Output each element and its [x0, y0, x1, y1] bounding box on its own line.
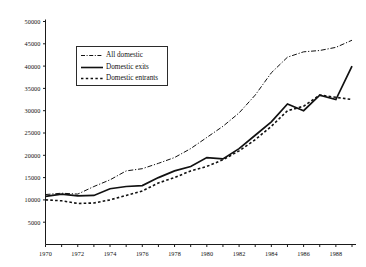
x-axis-tick-label: 1986 [290, 250, 318, 257]
dash-dot-line-icon [81, 51, 103, 60]
legend-item-all-domestic: All domestic [81, 50, 164, 62]
y-axis-tick-label: 30000 [2, 107, 41, 114]
solid-line-icon [81, 63, 103, 72]
y-axis-tick-label: 50000 [2, 18, 41, 25]
y-axis-tick-label: 20000 [2, 152, 41, 159]
x-axis-tick-label: 1982 [225, 250, 253, 257]
x-axis-tick-label: 1972 [64, 250, 92, 257]
series-line [46, 95, 353, 203]
chart-legend: All domestic Domestic exits Domestic ent… [76, 46, 168, 86]
y-axis-tick-label: 10000 [2, 196, 41, 203]
x-axis-tick-label: 1976 [128, 250, 156, 257]
legend-label-domestic-exits: Domestic exits [106, 63, 149, 72]
x-axis-tick-label: 1970 [32, 250, 60, 257]
legend-item-domestic-exits: Domestic exits [81, 62, 164, 74]
x-axis-tick-label: 1980 [193, 250, 221, 257]
x-axis-tick-label: 1988 [322, 250, 350, 257]
chart-container: All domestic Domestic exits Domestic ent… [0, 0, 366, 267]
legend-label-all-domestic: All domestic [106, 51, 143, 60]
y-axis-tick-label: 15000 [2, 174, 41, 181]
x-axis-tick-label: 1978 [161, 250, 189, 257]
y-axis-tick-label: 5000 [2, 219, 41, 226]
x-axis-tick-label: 1984 [257, 250, 285, 257]
dotted-line-icon [81, 74, 103, 83]
line-chart-plot [0, 0, 366, 267]
y-axis-tick-label: 45000 [2, 40, 41, 47]
x-axis-tick-label: 1974 [96, 250, 124, 257]
y-axis-tick-label: 35000 [2, 85, 41, 92]
y-axis-tick-label: 25000 [2, 129, 41, 136]
legend-item-domestic-entrants: Domestic entrants [81, 73, 164, 85]
legend-label-domestic-entrants: Domestic entrants [106, 74, 158, 83]
y-axis-tick-label: 40000 [2, 63, 41, 70]
